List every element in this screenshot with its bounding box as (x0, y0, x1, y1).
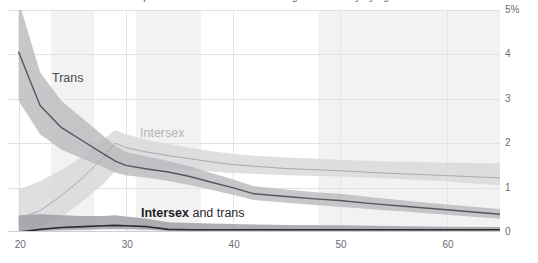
plot-area: Trans Intersex Intersex and trans (8, 10, 500, 232)
chart-title-cropped: prevalence of intersex and transgender i… (0, 0, 538, 3)
y-tick-2: 2 (505, 138, 511, 148)
x-tick-30: 30 (122, 240, 133, 250)
annotation-intersex: Intersex (140, 127, 184, 139)
annotation-intersex-and-trans: Intersex and trans (141, 206, 245, 219)
zero-baseline (8, 231, 500, 232)
x-tick-60: 60 (443, 240, 454, 250)
y-tick-5: 5% (505, 5, 519, 15)
y-axis: 5%43210 (505, 0, 538, 240)
annotation-both-rest: and trans (189, 206, 245, 220)
x-tick-40: 40 (229, 240, 240, 250)
annotation-both-bold: Intersex (141, 206, 189, 220)
x-tick-20: 20 (15, 240, 26, 250)
x-tick-50: 50 (336, 240, 347, 250)
y-tick-3: 3 (505, 94, 511, 104)
series-canvas (8, 10, 500, 232)
y-tick-4: 4 (505, 49, 511, 59)
annotation-trans: Trans (52, 72, 84, 84)
y-tick-1: 1 (505, 183, 511, 193)
chart-root: prevalence of intersex and transgender i… (0, 0, 538, 263)
chart-svg (8, 10, 500, 232)
x-axis: 2030405060 (0, 236, 538, 258)
